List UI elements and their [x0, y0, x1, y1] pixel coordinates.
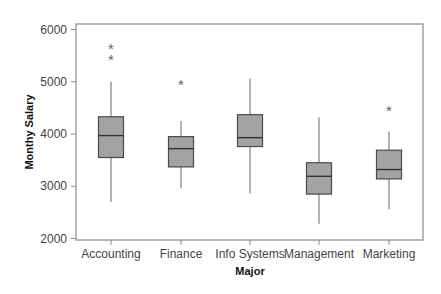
outlier-marker: * — [178, 76, 184, 93]
x-tick-label: Accounting — [81, 247, 140, 261]
iqr-box — [377, 150, 402, 179]
outlier-marker: * — [108, 40, 114, 57]
y-tick-label: 4000 — [40, 127, 67, 141]
y-tick-label: 6000 — [40, 23, 67, 37]
x-axis: AccountingFinanceInfo SystemsManagementM… — [81, 240, 415, 261]
box-plot-chart: 20003000400050006000 AccountingFinanceIn… — [0, 0, 441, 294]
box-marketing: * — [377, 102, 402, 209]
iqr-box — [169, 137, 194, 167]
x-tick-label: Marketing — [363, 247, 416, 261]
x-tick-label: Info Systems — [215, 247, 284, 261]
boxes: **** — [99, 40, 402, 224]
iqr-box — [238, 115, 263, 147]
y-axis: 20003000400050006000 — [40, 23, 76, 246]
iqr-box — [307, 163, 332, 194]
outlier-marker: * — [386, 102, 392, 119]
y-tick-label: 5000 — [40, 75, 67, 89]
iqr-box — [99, 117, 124, 158]
box-accounting: ** — [99, 40, 124, 202]
x-tick-label: Management — [284, 247, 355, 261]
box-info-systems — [238, 79, 263, 194]
box-management — [307, 117, 332, 224]
box-finance: * — [169, 76, 194, 188]
y-axis-title: Monthy Salary — [23, 94, 35, 170]
y-tick-label: 2000 — [40, 232, 67, 246]
x-tick-label: Finance — [160, 247, 203, 261]
x-axis-title: Major — [235, 265, 265, 277]
y-tick-label: 3000 — [40, 179, 67, 193]
